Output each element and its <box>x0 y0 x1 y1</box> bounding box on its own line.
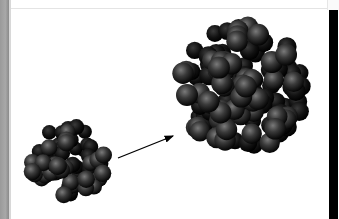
large-cluster <box>172 17 310 154</box>
growth-arrow <box>118 136 173 158</box>
small-cluster <box>24 119 112 203</box>
